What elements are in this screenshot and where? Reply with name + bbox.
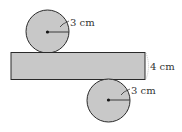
- rectangle-height-label: 4 cm: [150, 61, 175, 72]
- rectangle-group: 4 cm: [11, 53, 175, 80]
- bottom-circle-group: 3 cm: [87, 79, 156, 122]
- rectangle-height-brace: [146, 53, 149, 79]
- cylinder-net-diagram: 3 cm 4 cm 3 cm: [0, 0, 182, 132]
- bottom-circle-radius-label: 3 cm: [131, 85, 156, 96]
- top-circle-group: 3 cm: [26, 10, 95, 53]
- top-circle-radius-label: 3 cm: [70, 17, 95, 28]
- lateral-rectangle: [11, 53, 145, 80]
